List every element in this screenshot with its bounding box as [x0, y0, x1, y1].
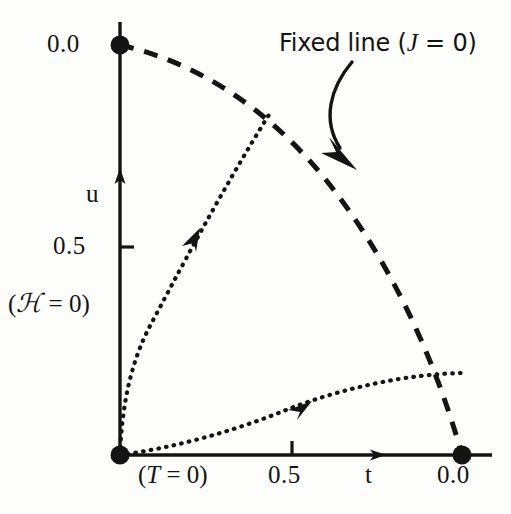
temperature-symbol: T [146, 461, 160, 488]
fixed-line-annotation-label: Fixed line (J = 0) [279, 30, 477, 55]
y-axis-tick-label-top: 0.0 [47, 31, 80, 56]
x-axis-origin-label: (T = 0) [138, 462, 208, 487]
fixed-line-curve [120, 45, 462, 455]
x-axis-title: t [365, 462, 372, 487]
script-h-symbol: ℋ [16, 288, 42, 318]
y-axis-title: u [86, 181, 99, 206]
coupling-symbol: J [407, 29, 418, 56]
x-axis-tick-label-right: 0.0 [437, 462, 470, 487]
annotation-prefix-text: Fixed line ( [279, 29, 407, 57]
rg-flow-diagram: 0.0 0.5 u (ℋ = 0) (T = 0) 0.5 t 0.0 Fixe… [0, 0, 511, 514]
y-axis-origin-label: (ℋ = 0) [8, 290, 90, 316]
fixed-point-marker-top [111, 36, 130, 55]
fixed-point-marker-origin [111, 446, 130, 465]
annotation-suffix-text: = 0) [418, 29, 477, 57]
upper-trajectory-curve [120, 110, 272, 455]
x-axis-tick-label-mid: 0.5 [268, 462, 301, 487]
upper-trajectory-arrowhead [182, 228, 200, 252]
annotation-leader-arrowhead [321, 137, 357, 170]
y-axis-tick-label-mid: 0.5 [53, 233, 86, 258]
annotation-leader-line [330, 62, 352, 148]
equals-zero-text: = 0) [42, 290, 89, 317]
axes-group [115, 22, 493, 461]
equals-zero-text: = 0) [160, 461, 207, 488]
